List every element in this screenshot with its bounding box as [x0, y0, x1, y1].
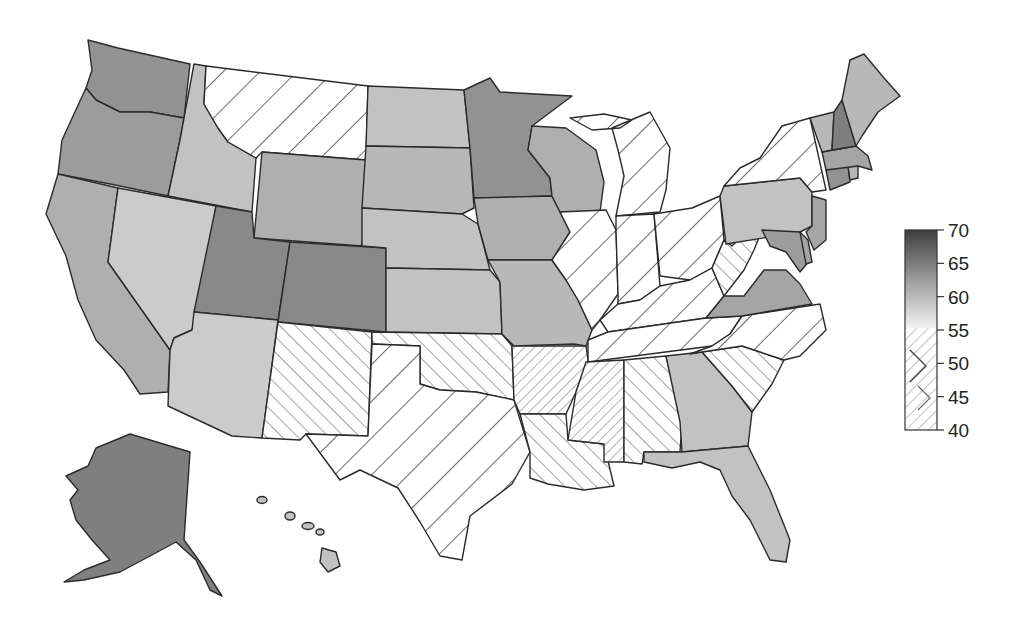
state-FL[interactable] [644, 446, 790, 562]
state-SD[interactable] [362, 146, 474, 214]
legend-tick-label: 60 [948, 287, 969, 308]
state-AK[interactable] [64, 434, 222, 596]
legend-hatched-bar [905, 328, 937, 430]
state-ND[interactable] [366, 86, 470, 148]
state-NY[interactable] [724, 118, 826, 192]
state-CO[interactable] [278, 242, 386, 332]
state-KS[interactable] [386, 268, 502, 334]
color-legend: 70656055504540 [905, 220, 969, 441]
us-choropleth-map: 70656055504540 [0, 0, 1012, 624]
legend-tick-label: 40 [948, 420, 969, 441]
state-HI[interactable] [257, 497, 340, 573]
legend-tick-label: 50 [948, 353, 969, 374]
legend-tick-label: 70 [948, 220, 969, 241]
legend-tick-label: 65 [948, 253, 969, 274]
state-NM[interactable] [262, 322, 372, 440]
legend-tick-label: 55 [948, 320, 969, 341]
state-IA[interactable] [474, 196, 570, 260]
state-WY[interactable] [254, 152, 366, 246]
legend-tick-label: 45 [948, 387, 969, 408]
state-shapes [46, 40, 900, 596]
state-RI[interactable] [848, 166, 858, 180]
legend-gradient-bar [905, 230, 937, 328]
